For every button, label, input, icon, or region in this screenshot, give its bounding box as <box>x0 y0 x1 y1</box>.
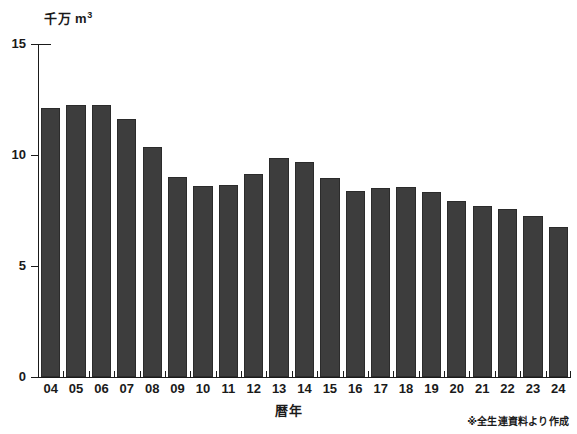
x-axis-labels: 0405060708091011121314151617181920212223… <box>38 381 571 399</box>
bar-12 <box>244 174 263 377</box>
bar-04 <box>41 108 60 377</box>
x-label-05: 05 <box>69 381 83 396</box>
x-label-17: 17 <box>373 381 387 396</box>
bar-13 <box>269 158 288 377</box>
bar-11 <box>219 185 238 377</box>
bar-14 <box>295 162 314 377</box>
x-label-14: 14 <box>297 381 311 396</box>
bar-23 <box>523 216 542 377</box>
bar-10 <box>193 186 212 377</box>
bar-06 <box>92 105 111 377</box>
x-axis-line <box>38 377 571 378</box>
x-label-09: 09 <box>170 381 184 396</box>
x-label-12: 12 <box>247 381 261 396</box>
bar-08 <box>143 147 162 377</box>
source-note: ※全生連資料より作成 <box>467 413 569 428</box>
x-label-08: 08 <box>145 381 159 396</box>
x-label-18: 18 <box>399 381 413 396</box>
y-tick-label-0: 0 <box>0 369 26 384</box>
x-label-07: 07 <box>120 381 134 396</box>
y-tick-label-10: 10 <box>0 147 26 162</box>
bar-24 <box>549 227 568 377</box>
bar-22 <box>498 209 517 377</box>
y-axis-unit-text: 千万 m <box>44 11 87 26</box>
bar-chart: 千万 m3 051015 040506070809101112131415161… <box>0 0 577 434</box>
y-axis-unit-label: 千万 m3 <box>44 8 93 27</box>
bar-18 <box>396 187 415 377</box>
x-label-04: 04 <box>43 381 57 396</box>
y-tick-label-15: 15 <box>0 36 26 51</box>
bar-15 <box>320 178 339 377</box>
bar-05 <box>66 105 85 377</box>
x-label-19: 19 <box>424 381 438 396</box>
x-label-22: 22 <box>500 381 514 396</box>
x-label-16: 16 <box>348 381 362 396</box>
y-tick-label-5: 5 <box>0 258 26 273</box>
bar-series <box>38 44 571 377</box>
x-label-24: 24 <box>551 381 565 396</box>
bar-09 <box>168 177 187 377</box>
x-label-15: 15 <box>323 381 337 396</box>
x-label-23: 23 <box>526 381 540 396</box>
x-label-10: 10 <box>196 381 210 396</box>
bar-17 <box>371 188 390 377</box>
bar-20 <box>447 201 466 377</box>
bar-07 <box>117 119 136 377</box>
y-axis-unit-exponent: 3 <box>87 10 93 20</box>
bar-19 <box>422 192 441 377</box>
x-label-20: 20 <box>450 381 464 396</box>
bar-16 <box>346 191 365 377</box>
x-label-06: 06 <box>94 381 108 396</box>
bar-21 <box>473 206 492 377</box>
x-label-11: 11 <box>221 381 235 396</box>
x-label-13: 13 <box>272 381 286 396</box>
y-tick-0 <box>31 377 39 378</box>
x-label-21: 21 <box>475 381 489 396</box>
